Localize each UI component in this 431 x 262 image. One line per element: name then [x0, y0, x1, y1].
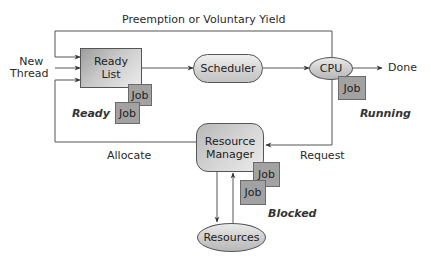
- ready-list-line-1: Ready: [94, 55, 128, 68]
- state-ready-label: Ready: [72, 108, 110, 120]
- state-running-label: Running: [360, 108, 411, 120]
- request-edge: [266, 80, 332, 145]
- ready-list-line-2: List: [101, 68, 120, 81]
- new-thread-line-2: Thread: [10, 68, 48, 80]
- resource-manager-line-2: Manager: [206, 148, 254, 161]
- done-label: Done: [388, 62, 417, 74]
- running-job: Job: [338, 76, 366, 100]
- resources-node: Resources: [197, 223, 266, 252]
- ready-job-2: Job: [115, 102, 140, 124]
- resource-manager-line-1: Resource: [205, 135, 255, 148]
- blocked-job-2: Job: [240, 180, 266, 205]
- request-label: Request: [300, 150, 345, 162]
- allocate-label: Allocate: [107, 150, 151, 162]
- scheduler-node: Scheduler: [193, 54, 263, 83]
- preemption-label: Preemption or Voluntary Yield: [122, 13, 285, 26]
- state-blocked-label: Blocked: [268, 208, 317, 220]
- new-thread-label: New Thread: [14, 56, 48, 80]
- ready-list-node: Ready List: [80, 48, 142, 88]
